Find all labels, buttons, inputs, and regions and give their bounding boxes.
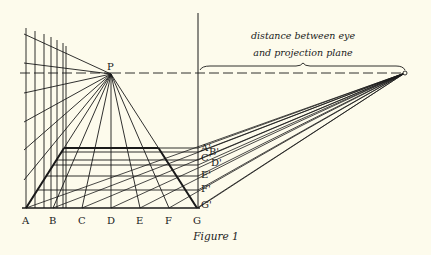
line <box>140 73 405 208</box>
line <box>111 73 405 208</box>
figure-caption: Figure 1 <box>192 230 238 242</box>
line <box>198 73 405 176</box>
line <box>82 74 111 208</box>
annotation-line-2: and projection plane <box>253 47 353 58</box>
line <box>24 34 111 74</box>
line <box>24 63 111 74</box>
base-label-g: G <box>193 215 201 226</box>
base-label-d: D <box>107 215 115 226</box>
line <box>111 74 140 208</box>
line <box>198 73 405 190</box>
line <box>24 74 111 122</box>
line <box>198 73 405 165</box>
base-label-c: C <box>78 215 86 226</box>
annotation-line-1: distance between eye <box>251 30 356 41</box>
line <box>198 73 405 160</box>
line <box>198 73 405 148</box>
plane-label-g: G' <box>201 199 212 210</box>
eye-point <box>403 71 407 75</box>
line <box>24 74 111 150</box>
line <box>26 148 64 208</box>
line <box>158 148 197 208</box>
base-label-f: F <box>165 215 172 226</box>
perspective-diagram: P distance between eye and projection pl… <box>0 0 431 255</box>
plane-label-f: F' <box>201 183 211 194</box>
plane-label-c: C' <box>201 152 211 163</box>
base-label-b: B <box>49 215 56 226</box>
vanishing-point-label: P <box>107 61 114 72</box>
plane-label-e: E' <box>201 169 211 180</box>
base-label-a: A <box>21 215 30 226</box>
distance-brace <box>200 63 405 70</box>
construction-lines <box>20 13 407 208</box>
base-label-e: E <box>136 215 143 226</box>
plane-label-d: D' <box>211 157 222 168</box>
line <box>111 74 169 208</box>
